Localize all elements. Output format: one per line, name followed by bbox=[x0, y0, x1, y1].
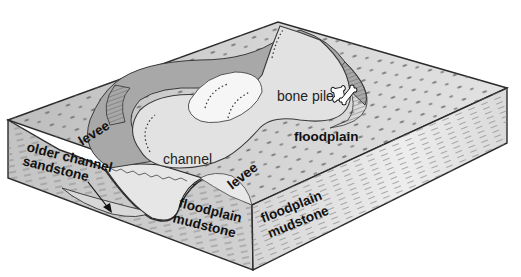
label-channel: channel bbox=[163, 151, 212, 167]
label-floodplain: floodplain bbox=[294, 129, 359, 144]
label-bone-pile: bone pile bbox=[277, 88, 334, 104]
floodplain-block-diagram: levee channel levee bone pile floodplain… bbox=[0, 0, 521, 277]
